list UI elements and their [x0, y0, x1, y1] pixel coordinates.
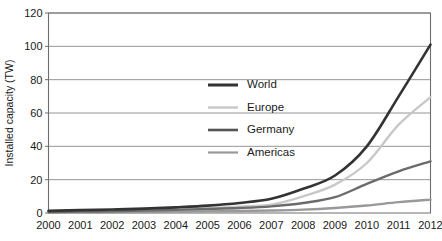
y-tick-label-20: 20: [30, 174, 42, 186]
x-tick-label-2002: 2002: [100, 219, 124, 231]
legend-label-europe: Europe: [247, 101, 284, 113]
y-tick-label-100: 100: [24, 40, 42, 52]
x-tick-label-2003: 2003: [132, 219, 156, 231]
x-tick-label-2009: 2009: [323, 219, 347, 231]
x-tick-label-2001: 2001: [68, 219, 92, 231]
legend-label-world: World: [247, 78, 277, 90]
x-tick-label-2011: 2011: [387, 219, 411, 231]
y-axis-title: Installed capacity (TW): [3, 60, 15, 167]
legend-label-germany: Germany: [247, 123, 295, 135]
line-chart: 020406080100120 200020012002200320042005…: [0, 0, 442, 241]
x-tick-label-2004: 2004: [164, 219, 188, 231]
y-tick-label-80: 80: [30, 74, 42, 86]
legend-label-americas: Americas: [247, 146, 295, 158]
y-tick-label-120: 120: [24, 7, 42, 19]
x-tick-label-2007: 2007: [259, 219, 283, 231]
x-tick-label-2010: 2010: [355, 219, 379, 231]
y-tick-label-40: 40: [30, 140, 42, 152]
x-tick-label-2008: 2008: [291, 219, 315, 231]
x-tick-label-2005: 2005: [195, 219, 219, 231]
x-tick-label-2006: 2006: [227, 219, 251, 231]
x-tick-label-2012: 2012: [418, 219, 442, 231]
chart-page: 020406080100120 200020012002200320042005…: [0, 0, 442, 241]
y-tick-label-60: 60: [30, 107, 42, 119]
x-tick-label-2000: 2000: [36, 219, 60, 231]
y-tick-label-0: 0: [36, 207, 42, 219]
